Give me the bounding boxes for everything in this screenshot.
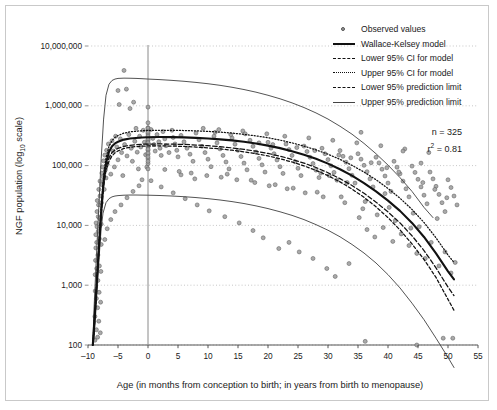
legend-key-glyph — [333, 43, 355, 45]
legend-label: Lower 95% prediction limit — [361, 83, 461, 92]
legend-item: Lower 95% prediction limit — [332, 80, 492, 95]
legend: Observed valuesWallace-Kelsey modelLower… — [332, 22, 492, 110]
x-tick-label: 20 — [253, 351, 283, 361]
legend-swatch-dash-small — [332, 82, 356, 94]
stats-annotation: n = 325r2 = 0.81 — [382, 126, 462, 156]
sample-size-annotation: n = 325 — [382, 126, 462, 139]
x-tick-label: 30 — [313, 351, 343, 361]
legend-item: Upper 95% prediction limit — [332, 95, 492, 110]
legend-swatch-solid-thin — [332, 96, 356, 108]
legend-item: Wallace-Kelsey model — [332, 37, 492, 52]
x-axis-title: Age (in months from conception to birth;… — [60, 380, 480, 390]
x-tick-label: 25 — [283, 351, 313, 361]
x-tick-label: 5 — [163, 351, 193, 361]
x-tick-label: 0 — [133, 351, 163, 361]
legend-key-glyph — [341, 27, 345, 31]
legend-swatch-solid-thick — [332, 38, 356, 50]
legend-key-glyph — [333, 102, 355, 103]
x-tick-label: 40 — [373, 351, 403, 361]
legend-item: Lower 95% CI for model — [332, 51, 492, 66]
legend-label: Upper 95% CI for model — [361, 69, 453, 78]
legend-label: Observed values — [361, 25, 426, 34]
legend-item: Upper 95% CI for model — [332, 66, 492, 81]
legend-swatch-dash — [332, 52, 356, 64]
y-axis-title-wrap: NGF population (log10 scale) — [0, 0, 120, 410]
legend-item: Observed values — [332, 22, 492, 37]
legend-swatch-dot — [332, 23, 356, 35]
legend-label: Upper 95% prediction limit — [361, 98, 461, 107]
x-tick-label: 15 — [223, 351, 253, 361]
r-squared-annotation: r2 = 0.81 — [382, 139, 462, 156]
legend-swatch-dotted — [332, 67, 356, 79]
x-tick-label: 50 — [433, 351, 463, 361]
x-tick-label: 10 — [193, 351, 223, 361]
legend-label: Wallace-Kelsey model — [361, 40, 446, 49]
x-tick-label: 35 — [343, 351, 373, 361]
x-tick-label: 45 — [403, 351, 433, 361]
legend-key-glyph — [333, 58, 355, 59]
legend-label: Lower 95% CI for model — [361, 54, 453, 63]
x-tick-label: 55 — [463, 351, 493, 361]
legend-key-glyph — [333, 72, 355, 73]
legend-key-glyph — [333, 87, 355, 88]
y-axis-title: NGF population (log10 scale) — [14, 96, 26, 256]
